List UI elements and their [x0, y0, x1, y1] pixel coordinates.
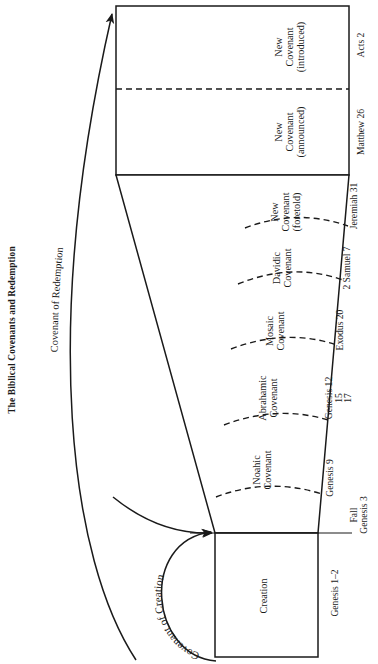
event-marker-line2: Genesis 3 [359, 496, 369, 534]
segment-name-line2: Covenant [262, 450, 273, 489]
segment-name-line2: Covenant [280, 192, 291, 231]
segment-label-new-foretold: New Covenant (foretold) [269, 192, 302, 231]
segment-name-line2: Covenant [275, 311, 286, 350]
segment-name-line1: Creation [258, 578, 269, 613]
reference-new-announced: Matthew 26 [356, 109, 366, 155]
segment-name-line3: (introduced) [296, 22, 307, 72]
segment-name-line3: (foretold) [292, 192, 303, 231]
fan-outline [116, 175, 349, 533]
segment-name-line2: Covenant [284, 107, 295, 158]
page-title: The Biblical Covenants and Redemption [7, 246, 17, 414]
covenant-of-redemption-label: Covenant of Redemption [49, 246, 65, 352]
redemption-branch-arrow [113, 497, 212, 533]
segment-name-line1: Noahic [251, 450, 262, 489]
segment-label-mosaic: Mosaic Covenant [264, 311, 286, 350]
segment-name-line1: New [269, 192, 280, 231]
segment-name-line1: Davidic [271, 248, 282, 287]
segment-name-line1: New [273, 22, 284, 72]
segment-name-line2: Covenant [284, 22, 295, 72]
reference-noahic: Genesis 9 [325, 459, 335, 497]
reference-abrahamic: Genesis 12 15 17 [324, 377, 353, 419]
segment-label-new-announced: New Covenant (announced) [273, 107, 306, 158]
segment-name-line2: Covenant [282, 248, 293, 287]
segment-label-new-introduced: New Covenant (introduced) [273, 22, 306, 72]
covenant-of-creation-label: Covenant of Creation [151, 572, 200, 662]
segment-name-line3: (announced) [296, 107, 307, 158]
segment-name-line1: Abrahamic [257, 375, 268, 420]
segment-label-noahic: Noahic Covenant [251, 450, 273, 489]
segment-label-davidic: Davidic Covenant [271, 248, 293, 287]
new-covenant-block [116, 6, 349, 175]
reference-creation: Genesis 1–2 [330, 569, 340, 616]
reference-line-extra-2: 17 [343, 377, 353, 419]
event-marker-fall: Fall Genesis 3 [349, 496, 370, 534]
new-covenant-outer-box [116, 6, 349, 175]
reference-davidic: 2 Samuel 7 [342, 246, 352, 289]
reference-new-foretold: Jeremiah 31 [349, 183, 359, 230]
reference-mosaic: Exodus 20 [335, 310, 345, 351]
reference-new-introduced: Acts 2 [356, 33, 366, 58]
segment-label-abrahamic: Abrahamic Covenant [257, 375, 279, 420]
segment-name-line2: Covenant [268, 375, 279, 420]
segment-label-creation: Creation [258, 578, 269, 613]
segment-name-line1: Mosaic [264, 311, 275, 350]
segment-name-line1: New [273, 107, 284, 158]
covenant-fan [116, 175, 349, 533]
covenant-diagram: Covenant of Redemption Covenant of Creat… [0, 0, 378, 664]
